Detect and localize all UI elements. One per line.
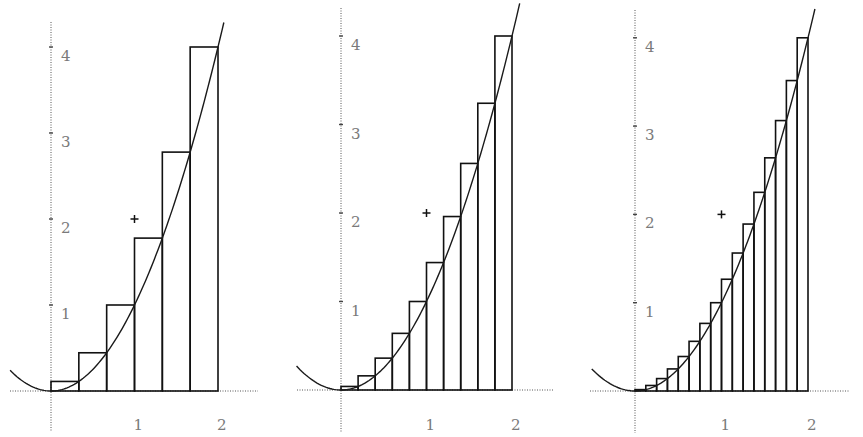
riemann-rectangle xyxy=(495,36,512,390)
riemann-rectangle xyxy=(51,381,79,391)
riemann-rectangle xyxy=(190,47,218,391)
riemann-rectangle xyxy=(409,302,426,391)
x-tick-label: 2 xyxy=(511,416,521,434)
parabola-curve xyxy=(10,23,224,392)
riemann-rectangle xyxy=(786,81,797,391)
riemann-rectangle xyxy=(667,369,678,391)
panel-n16: 123412 xyxy=(590,9,850,434)
x-tick-label: 1 xyxy=(426,416,436,434)
riemann-rectangle xyxy=(678,357,689,391)
riemann-rectangle xyxy=(754,192,765,391)
y-tick-label: 4 xyxy=(351,36,361,54)
riemann-rectangle xyxy=(392,333,409,390)
panel-n6: 123412 xyxy=(10,22,258,434)
plus-marker-icon xyxy=(718,210,726,218)
riemann-rectangle xyxy=(797,38,808,391)
riemann-rectangle xyxy=(722,279,733,391)
x-tick-label: 1 xyxy=(134,416,144,434)
y-tick-label: 3 xyxy=(61,133,71,151)
x-tick-label: 2 xyxy=(217,416,227,434)
riemann-rectangle xyxy=(765,158,776,391)
y-tick-label: 3 xyxy=(645,126,655,144)
riemann-rectangle xyxy=(162,152,190,391)
riemann-rectangle xyxy=(461,163,478,390)
y-tick-label: 4 xyxy=(645,38,655,56)
y-tick-label: 2 xyxy=(645,214,655,232)
riemann-sum-figure: 123412 123412 123412 xyxy=(0,0,863,437)
plus-marker-icon xyxy=(423,209,431,217)
riemann-rectangle xyxy=(444,217,461,390)
y-tick-label: 1 xyxy=(351,302,361,320)
riemann-rectangle xyxy=(135,238,163,391)
y-tick-label: 2 xyxy=(61,219,71,237)
x-tick-label: 1 xyxy=(721,416,731,434)
y-tick-label: 1 xyxy=(61,305,71,323)
y-tick-label: 3 xyxy=(351,125,361,143)
y-tick-label: 1 xyxy=(645,303,655,321)
y-tick-label: 2 xyxy=(351,213,361,231)
riemann-rectangle xyxy=(711,303,722,391)
plus-marker-icon xyxy=(131,215,139,223)
x-tick-label: 2 xyxy=(807,416,817,434)
riemann-rectangle xyxy=(478,103,495,390)
panel-n10: 123412 xyxy=(297,3,553,434)
parabola-curve xyxy=(592,9,815,391)
parabola-curve xyxy=(297,3,520,390)
y-tick-label: 4 xyxy=(61,47,71,65)
riemann-rectangle xyxy=(776,121,787,391)
